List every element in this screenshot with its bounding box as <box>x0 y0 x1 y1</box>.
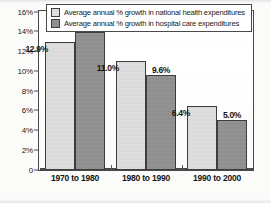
bar-group: 11.0%9.6% <box>111 12 182 170</box>
y-axis-tick-label: 4% <box>22 126 33 135</box>
y-axis-tick-label: 10% <box>18 66 33 75</box>
y-axis-tick-label: 6% <box>22 106 33 115</box>
bar-value-label: 11.0% <box>97 63 119 73</box>
scan-edge-top <box>0 0 271 3</box>
scan-edge-bottom <box>0 199 271 203</box>
bar-group: 12.9%13.9% <box>40 12 111 170</box>
bar-group: 6.4%5.0% <box>182 12 253 170</box>
bar: 5.0% <box>217 120 247 169</box>
y-axis-tick-label: 14% <box>18 27 33 36</box>
bar-group-inner: 12.9%13.9% <box>40 12 111 170</box>
legend-swatch-light-icon <box>51 8 60 17</box>
x-axis: 1970 to 19801980 to 19901990 to 2000 <box>40 173 253 191</box>
bar-value-label: 5.0% <box>223 110 241 120</box>
bar-chart: 02%4%6%8%10%12%14%16% 12.9%13.9%11.0%9.6… <box>0 0 271 203</box>
y-axis-tick-label: 0 <box>29 165 33 174</box>
bar: 13.9% <box>75 32 105 169</box>
legend-label: Average annual % growth in hospital care… <box>64 19 239 28</box>
legend-item-national-health: Average annual % growth in national heal… <box>51 8 247 17</box>
legend-swatch-dark-icon <box>51 19 60 28</box>
legend-label: Average annual % growth in national heal… <box>64 8 245 17</box>
bar: 6.4% <box>187 106 217 169</box>
bar: 12.9% <box>45 42 75 169</box>
bar-group-inner: 6.4%5.0% <box>182 12 253 170</box>
y-axis: 02%4%6%8%10%12%14%16% <box>0 10 38 171</box>
bar: 11.0% <box>116 61 146 170</box>
bar-group-inner: 11.0%9.6% <box>111 12 182 170</box>
x-axis-category-label: 1970 to 1980 <box>51 173 99 183</box>
y-axis-tick-label: 2% <box>22 145 33 154</box>
y-axis-tick-label: 16% <box>18 7 33 16</box>
x-axis-category-label: 1980 to 1990 <box>122 173 170 183</box>
bar-value-label: 6.4% <box>172 108 190 118</box>
bar-value-label: 12.9% <box>25 44 48 54</box>
y-axis-tick-label: 8% <box>22 86 33 95</box>
chart-legend: Average annual % growth in national heal… <box>46 4 252 32</box>
x-axis-category-label: 1990 to 2000 <box>193 173 241 183</box>
plot-area: 12.9%13.9%11.0%9.6%6.4%5.0% <box>40 12 253 170</box>
bar-value-label: 9.6% <box>152 65 170 75</box>
bar: 9.6% <box>146 75 176 170</box>
legend-item-hospital-care: Average annual % growth in hospital care… <box>51 19 247 28</box>
